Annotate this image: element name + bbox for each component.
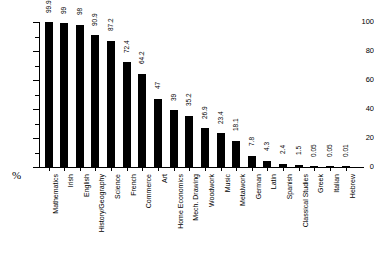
category-label-text: Mech. Drawing: [192, 174, 199, 221]
bar-value-label: 0.01: [342, 144, 349, 157]
category-label: Hebrew: [349, 150, 356, 174]
category-label-text: English: [83, 174, 90, 197]
category-label: Science: [114, 149, 121, 174]
bar-chart: 020406080100 % 99.9999890.987.272.464.24…: [0, 0, 374, 257]
x-tick: [283, 167, 284, 171]
x-tick: [330, 167, 331, 171]
category-label-text: Latin: [270, 174, 277, 189]
category-label-text: Hebrew: [349, 174, 356, 198]
category-label-text: Irish: [67, 174, 74, 187]
category-label: Spanish: [286, 149, 293, 174]
category-label: Irish: [67, 161, 74, 174]
bar-rect: [154, 99, 162, 167]
category-label-text: French: [130, 174, 137, 196]
category-label: Mathematics: [52, 134, 59, 174]
category-label-text: Home Economics: [177, 174, 184, 229]
category-label-text: Music: [224, 174, 231, 192]
x-tick: [314, 167, 315, 171]
bar: 0.05: [310, 22, 318, 167]
category-label-text: Spanish: [286, 174, 293, 199]
bar: 23.4: [217, 22, 225, 167]
category-label-text: Italian: [333, 174, 340, 193]
category-label-text: Commerce: [145, 174, 152, 208]
bar: 72.4: [123, 22, 131, 167]
category-label: Commerce: [145, 140, 152, 174]
x-tick: [111, 167, 112, 171]
bar-value-label: 72.4: [124, 40, 131, 53]
category-label: Woodwork: [208, 141, 215, 174]
bar: 99: [60, 22, 68, 167]
bar-value-label: 4.3: [264, 142, 271, 151]
y-tick-minor-30: [35, 124, 39, 125]
bar: 0.05: [326, 22, 334, 167]
bar: 98: [76, 22, 84, 167]
bar-value-label: 7.8: [249, 137, 256, 146]
bar-value-label: 39: [170, 94, 177, 101]
bar-value-label: 99.9: [45, 0, 52, 13]
category-label: Art: [161, 165, 168, 174]
category-label: Metalwork: [239, 142, 246, 174]
bar-value-label: 64.2: [139, 52, 146, 65]
x-tick: [221, 167, 222, 171]
y-tick-60: [33, 80, 39, 81]
y-tick-40: [33, 109, 39, 110]
category-label: French: [130, 152, 137, 174]
category-label: Home Economics: [177, 119, 184, 174]
bar-rect: [60, 23, 68, 167]
category-label-text: Metalwork: [239, 174, 246, 206]
x-tick: [189, 167, 190, 171]
bar: 0.01: [342, 22, 350, 167]
y-tick-100: [33, 22, 39, 23]
bar-value-label: 90.9: [92, 13, 99, 26]
bar-value-label: 99: [61, 7, 68, 14]
bar: 47: [154, 22, 162, 167]
x-tick: [80, 167, 81, 171]
bar-value-label: 18.1: [233, 119, 240, 132]
bar: 87.2: [107, 22, 115, 167]
x-tick: [49, 167, 50, 171]
y-axis-title: %: [12, 170, 21, 181]
bar-rect: [76, 25, 84, 167]
bar: 7.8: [248, 22, 256, 167]
bar-value-label: 23.4: [217, 111, 224, 124]
category-label: German: [255, 149, 262, 174]
bar-value-label: 47: [155, 82, 162, 89]
category-label: Latin: [270, 159, 277, 174]
x-tick: [64, 167, 65, 171]
x-tick: [346, 167, 347, 171]
category-label: English: [83, 151, 90, 174]
x-tick: [252, 167, 253, 171]
x-tick: [205, 167, 206, 171]
x-tick: [267, 167, 268, 171]
bar: 2.4: [279, 22, 287, 167]
category-label-text: Woodwork: [208, 174, 215, 207]
x-tick: [158, 167, 159, 171]
y-tick-minor-50: [35, 95, 39, 96]
y-tick-minor-70: [35, 66, 39, 67]
category-label: Classical Studies: [302, 121, 309, 174]
y-tick-20: [33, 138, 39, 139]
category-label-text: History/Geography: [98, 174, 105, 232]
bar: 4.3: [263, 22, 271, 167]
category-label: Greek: [317, 155, 324, 174]
x-tick: [174, 167, 175, 171]
x-tick: [142, 167, 143, 171]
bar-value-label: 98: [77, 8, 84, 15]
y-tick-0: [33, 167, 39, 168]
x-tick: [95, 167, 96, 171]
x-tick: [236, 167, 237, 171]
category-label: Mech. Drawing: [192, 127, 199, 174]
y-tick-80: [33, 51, 39, 52]
category-label-text: Mathematics: [52, 174, 59, 214]
category-label-text: Classical Studies: [302, 174, 309, 227]
category-label: History/Geography: [98, 116, 105, 174]
category-label-text: Greek: [317, 174, 324, 193]
x-tick: [299, 167, 300, 171]
bar-value-label: 87.2: [108, 18, 115, 31]
x-tick: [127, 167, 128, 171]
bar-value-label: 35.2: [186, 94, 193, 107]
category-label: Music: [224, 156, 231, 174]
bar-value-label: 26.9: [202, 106, 209, 119]
bar-value-label: 1.5: [295, 146, 302, 155]
category-label-text: German: [255, 174, 262, 199]
